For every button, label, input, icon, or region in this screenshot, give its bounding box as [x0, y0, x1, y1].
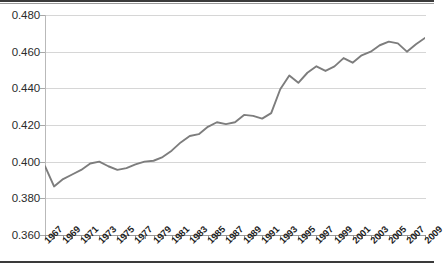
y-axis-tick-label: 0.480: [12, 9, 40, 21]
y-axis-tick-label: 0.440: [12, 82, 40, 94]
top-border-rule: [0, 0, 434, 2]
y-axis-tick-label: 0.380: [12, 192, 40, 204]
data-series-line: [45, 15, 425, 235]
y-axis-tick-label: 0.420: [12, 119, 40, 131]
bottom-border-rule: [0, 261, 434, 263]
y-axis-tick-label: 0.400: [12, 156, 40, 168]
y-axis-tick-label: 0.460: [12, 46, 40, 58]
top-border-rule-secondary: [0, 3, 434, 4]
series-path: [45, 38, 425, 187]
x-axis-tick-label: 2009: [422, 224, 444, 246]
y-axis-tick-label: 0.360: [12, 229, 40, 241]
y-axis-labels: 0.4800.4600.4400.4200.4000.3800.360: [0, 0, 40, 270]
